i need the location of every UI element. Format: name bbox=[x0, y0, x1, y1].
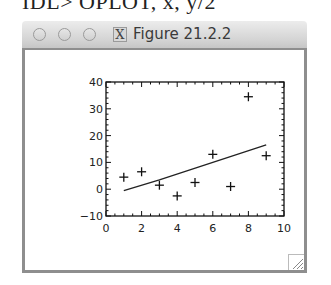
x-tick-label: 6 bbox=[209, 222, 216, 235]
plus-marker bbox=[208, 150, 217, 159]
figure-window: X Figure 21.2.2 0246810−10010203040 bbox=[22, 21, 307, 273]
plus-marker bbox=[119, 173, 128, 182]
resize-grip-icon[interactable] bbox=[288, 254, 304, 270]
plus-marker bbox=[244, 92, 253, 101]
plus-marker bbox=[173, 191, 182, 200]
x-tick-label: 8 bbox=[245, 222, 252, 235]
plus-marker bbox=[226, 182, 235, 191]
y-tick-label: 10 bbox=[89, 156, 103, 169]
plus-marker bbox=[155, 181, 164, 190]
zoom-button-circle-icon[interactable] bbox=[83, 28, 96, 41]
plus-marker bbox=[137, 167, 146, 176]
y-tick-label: 20 bbox=[89, 130, 103, 143]
y-tick-label: −10 bbox=[80, 210, 103, 223]
y-tick-label: 0 bbox=[96, 183, 103, 196]
x-tick-label: 4 bbox=[174, 222, 181, 235]
figure-content: 0246810−10010203040 bbox=[22, 50, 307, 273]
x-tick-label: 0 bbox=[103, 222, 110, 235]
y-tick-label: 30 bbox=[89, 103, 103, 116]
plus-marker bbox=[262, 151, 271, 160]
x-tick-label: 10 bbox=[277, 222, 291, 235]
scatter-plot: 0246810−10010203040 bbox=[25, 50, 304, 270]
minimize-button-circle-icon[interactable] bbox=[58, 28, 71, 41]
window-title: Figure 21.2.2 bbox=[133, 25, 231, 43]
window-titlebar[interactable]: X Figure 21.2.2 bbox=[22, 21, 307, 50]
idl-command-line: IDL> OPLOT, x, y/2 bbox=[22, 0, 216, 15]
close-button-circle-icon[interactable] bbox=[33, 28, 46, 41]
plot-frame bbox=[106, 82, 284, 216]
y-tick-label: 40 bbox=[89, 76, 103, 89]
x-tick-label: 2 bbox=[138, 222, 145, 235]
x11-icon: X bbox=[113, 27, 127, 42]
plus-marker bbox=[191, 178, 200, 187]
